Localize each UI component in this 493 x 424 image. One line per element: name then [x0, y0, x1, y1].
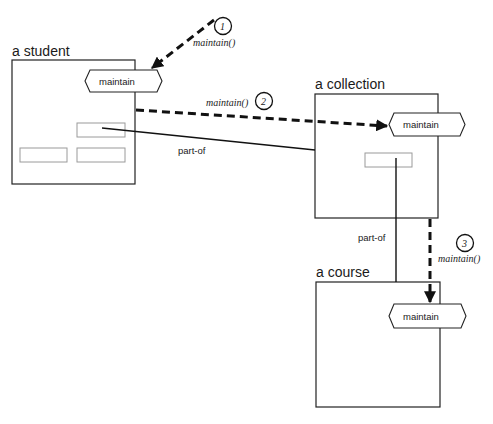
operation-maintain-collection[interactable]: maintain	[389, 113, 465, 136]
operation-label: maintain	[99, 76, 135, 87]
operation-label: maintain	[403, 311, 439, 322]
operation-maintain-student[interactable]: maintain	[85, 70, 162, 92]
object-course[interactable]: a course maintain	[316, 264, 466, 407]
operation-maintain-course[interactable]: maintain	[389, 304, 466, 328]
object-title-student: a student	[12, 43, 70, 59]
object-collection[interactable]: a collection maintain	[315, 76, 465, 218]
object-student[interactable]: a student maintain	[12, 43, 162, 184]
relation-label: part-of	[178, 145, 206, 156]
attribute-slot	[20, 148, 67, 162]
object-box-course	[316, 282, 440, 407]
object-title-collection: a collection	[315, 76, 385, 92]
sequence-number: 1	[220, 21, 225, 32]
message-label: maintain()	[206, 97, 249, 109]
attribute-slot	[77, 148, 125, 162]
attribute-slot	[365, 153, 412, 167]
operation-label: maintain	[403, 119, 439, 130]
sequence-number: 2	[261, 96, 266, 107]
sequence-number: 3	[461, 238, 467, 249]
message-label: maintain()	[438, 253, 481, 265]
object-title-course: a course	[316, 264, 370, 280]
relation-label: part-of	[358, 232, 386, 243]
message-label: maintain()	[193, 37, 236, 49]
message-1: 1 maintain()	[152, 18, 236, 69]
object-collaboration-diagram: a student maintain a collection maintain…	[0, 0, 493, 424]
